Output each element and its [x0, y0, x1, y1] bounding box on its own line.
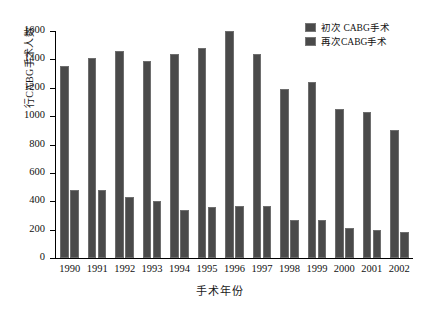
y-tick-label: 200	[0, 223, 45, 234]
bar	[170, 54, 179, 258]
bar	[125, 197, 134, 258]
x-tick-label: 2002	[383, 263, 415, 274]
bar	[373, 230, 382, 258]
legend-item-primary: 初次 CABG手术	[305, 21, 390, 33]
bar	[70, 190, 79, 258]
y-tick	[50, 258, 55, 259]
bar	[180, 210, 189, 258]
bar-chart: 行CABG手术人数 02004006008001000120014001600 …	[0, 0, 440, 309]
legend-label-secondary: 再次CABG手术	[321, 34, 387, 48]
bar	[290, 220, 299, 258]
bar	[363, 112, 372, 258]
bar	[335, 109, 344, 258]
y-tick-label: 1400	[0, 52, 45, 63]
y-tick-label: 0	[0, 251, 45, 262]
y-tick-label: 600	[0, 166, 45, 177]
x-axis-line	[55, 258, 413, 259]
y-tick	[50, 145, 55, 146]
legend-item-secondary: 再次CABG手术	[305, 35, 390, 47]
y-tick-label: 1200	[0, 81, 45, 92]
y-tick-label: 800	[0, 138, 45, 149]
legend-swatch-icon-secondary	[305, 37, 316, 46]
bar	[115, 51, 124, 258]
bar	[318, 220, 327, 258]
y-tick	[50, 31, 55, 32]
y-tick	[50, 230, 55, 231]
bar	[253, 54, 262, 258]
bar	[390, 130, 399, 258]
y-tick-label: 400	[0, 194, 45, 205]
bar	[308, 82, 317, 258]
y-tick-label: 1000	[0, 109, 45, 120]
bar	[263, 206, 272, 258]
bar	[400, 232, 409, 258]
y-tick	[50, 201, 55, 202]
plot-area: 02004006008001000120014001600 1990199119…	[55, 31, 412, 258]
bar	[143, 61, 152, 258]
x-axis-title: 手术年份	[0, 282, 440, 298]
y-tick	[50, 173, 55, 174]
y-axis-title: 行CABG手术人数	[21, 0, 36, 148]
bar	[198, 48, 207, 258]
y-tick	[50, 59, 55, 60]
legend-label-primary: 初次 CABG手术	[321, 20, 390, 34]
bar	[153, 201, 162, 258]
y-axis-line	[55, 31, 56, 259]
bar	[60, 66, 69, 258]
bar	[98, 190, 107, 258]
bar	[208, 207, 217, 258]
y-tick	[50, 88, 55, 89]
bar	[88, 58, 97, 258]
bar	[280, 89, 289, 258]
y-tick-label: 1600	[0, 24, 45, 35]
bar	[225, 31, 234, 258]
y-tick	[50, 116, 55, 117]
bar	[345, 228, 354, 258]
legend-swatch-icon-primary	[305, 23, 316, 32]
bar	[235, 206, 244, 258]
legend: 初次 CABG手术 再次CABG手术	[305, 21, 390, 49]
